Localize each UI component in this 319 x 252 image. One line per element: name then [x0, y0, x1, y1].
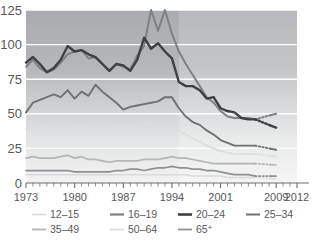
legend-label-20–24: 20–24 [196, 208, 225, 220]
chart-container: 0255075100125197319801987199420012009201… [0, 0, 319, 252]
y-tick-label: 50 [8, 106, 22, 121]
y-tick-label: 100 [0, 37, 22, 52]
y-tick-label: 25 [8, 141, 22, 156]
legend-label-16–19: 16–19 [128, 208, 157, 220]
plot-background-recent [179, 10, 297, 183]
legend: 12–1516–1920–2425–3435–4950–6465+ [32, 208, 293, 235]
y-tick-label: 125 [0, 3, 22, 18]
legend-label-65: 65+ [196, 223, 213, 236]
legend-label-50–64: 50–64 [128, 223, 157, 235]
legend-label-12–15: 12–15 [50, 208, 79, 220]
legend-label-35–49: 35–49 [50, 223, 79, 235]
series-line-tail [271, 149, 277, 150]
series-line-tail [271, 156, 277, 157]
line-chart: 0255075100125197319801987199420012009201… [0, 0, 319, 252]
y-tick-label: 0 [15, 176, 22, 191]
x-tick-label: 2012 [285, 191, 309, 203]
x-tick-label: 1980 [62, 191, 86, 203]
x-tick-label: 1987 [111, 191, 135, 203]
y-tick-label: 75 [8, 72, 22, 87]
x-axis-labels: 1973198019871994200120092012 [14, 191, 309, 203]
y-axis-labels: 0255075100125 [0, 3, 22, 191]
x-tick-label: 1994 [160, 191, 184, 203]
x-tick-label: 2001 [208, 191, 232, 203]
series-line-tail [271, 114, 277, 115]
x-tick-label: 1973 [14, 191, 38, 203]
x-axis-ticks [26, 183, 297, 188]
legend-label-25–34: 25–34 [264, 208, 293, 220]
